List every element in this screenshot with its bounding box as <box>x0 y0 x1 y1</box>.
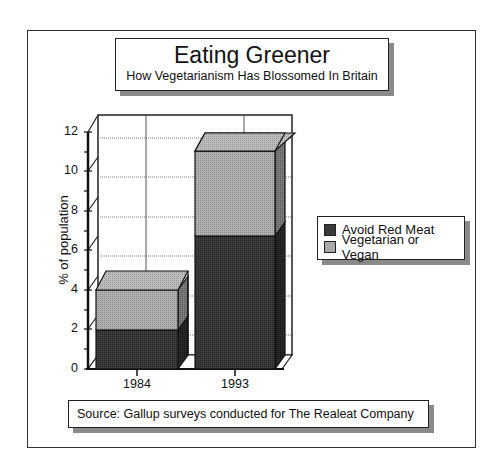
y-tick-label: 6 <box>58 242 78 256</box>
bar-1984 <box>96 271 188 369</box>
x-axis <box>86 369 284 376</box>
legend: Avoid Red Meat Vegetarian or Vegan <box>317 216 465 260</box>
x-tick-label: 1993 <box>210 377 260 391</box>
y-tick-label: 10 <box>58 163 78 177</box>
legend-item: Vegetarian or Vegan <box>324 238 458 255</box>
y-tick-label: 2 <box>58 321 78 335</box>
y-tick-label: 0 <box>58 361 78 375</box>
legend-swatch-dark <box>324 224 336 236</box>
y-tick-label: 12 <box>58 124 78 138</box>
bar-1993 <box>195 133 295 369</box>
legend-swatch-light <box>324 241 336 253</box>
y-tick-label: 4 <box>58 282 78 296</box>
y-tick-label: 8 <box>58 203 78 217</box>
source-note: Source: Gallup surveys conducted for The… <box>68 400 429 428</box>
x-tick-label: 1984 <box>112 377 162 391</box>
y-axis-label: % of population <box>56 185 71 295</box>
legend-label: Vegetarian or Vegan <box>342 232 458 262</box>
